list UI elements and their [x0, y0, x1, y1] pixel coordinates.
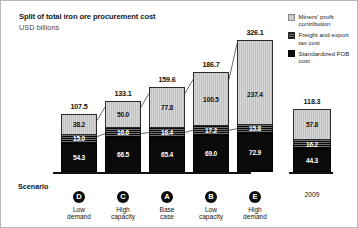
x-tick-scenario-d: D Low demand: [55, 191, 103, 221]
scenario-name-line1: Low: [187, 206, 235, 214]
segment-value: 54.3: [73, 154, 85, 161]
scenario-badge-e: E: [249, 191, 261, 203]
scenario-badge-a: A: [161, 191, 173, 203]
bar-segment-freight: 16.2: [293, 140, 331, 149]
bar-segment-freight: 15.0: [61, 135, 97, 143]
bar-total-label: 186.7: [183, 60, 239, 69]
segment-value: 15.0: [73, 135, 85, 142]
segment-value: 38.2: [73, 121, 85, 128]
bar-total-label: 326.1: [227, 28, 283, 37]
x-tick-scenario-c: C High capacity: [99, 191, 147, 221]
scenario-name-line1: Low: [55, 206, 103, 214]
bar-scenario-c: 133.1 50.0 16.6 66.5: [105, 101, 141, 172]
bar-scenario-b: 186.7 100.5 17.2 69.0: [193, 72, 229, 172]
bar-segment-freight: 15.8: [237, 125, 273, 133]
scenario-name-line2: case: [143, 213, 191, 221]
segment-value: 44.3: [306, 157, 318, 164]
segment-value: 77.8: [161, 104, 173, 111]
x-tick-scenario-a: A Base case: [143, 191, 191, 221]
bar-segment-miners-profit: 57.8: [293, 109, 331, 140]
segment-value: 72.9: [249, 149, 261, 156]
plot-area: 107.5 38.2 15.0 54.3 133.1 50.0 16.6 66.…: [1, 1, 358, 228]
scenario-name-line1: High: [231, 206, 279, 214]
bar-segment-fob: 65.4: [149, 137, 185, 172]
scenario-badge-d: D: [73, 191, 85, 203]
bar-segment-freight: 16.6: [105, 128, 141, 137]
bar-segment-miners-profit: 38.2: [61, 114, 97, 135]
scenario-name-line2: capacity: [99, 213, 147, 221]
segment-value: 17.2: [205, 127, 217, 134]
bar-total-label: 133.1: [95, 89, 151, 98]
bar-total-label: 159.6: [139, 75, 195, 84]
segment-value: 15.8: [249, 125, 261, 132]
segment-value: 57.8: [306, 121, 318, 128]
chart-frame: Split of total iron ore procurement cost…: [0, 0, 358, 228]
bar-segment-miners-profit: 77.8: [149, 87, 185, 129]
bar-segment-fob: 69.0: [193, 135, 229, 172]
segment-value: 16.6: [117, 129, 129, 136]
segment-value: 50.0: [117, 111, 129, 118]
bar-scenario-a: 159.6 77.8 16.4 65.4: [149, 87, 185, 172]
scenario-name-line2: capacity: [187, 213, 235, 221]
x-axis-line-scenarios: [53, 172, 251, 174]
scenario-badge-c: C: [117, 191, 129, 203]
x-tick-scenario-b: B Low capacity: [187, 191, 235, 221]
bar-segment-fob: 54.3: [61, 143, 97, 173]
bar-segment-freight: 17.2: [193, 126, 229, 135]
bar-segment-fob: 72.9: [237, 133, 273, 172]
bar-scenario-d: 107.5 38.2 15.0 54.3: [61, 114, 97, 172]
bar-total-label: 118.3: [284, 97, 340, 106]
segment-value: 69.0: [205, 150, 217, 157]
bar-segment-miners-profit: 50.0: [105, 101, 141, 128]
bar-scenario-e: 326.1 237.4 15.8 72.9: [237, 40, 273, 172]
x-tick-year-2009: 2009: [288, 191, 336, 198]
bar-total-label: 107.5: [51, 102, 107, 111]
bar-reference-2009: 118.3 57.8 16.2 44.3: [293, 109, 331, 172]
scenario-name-line1: High: [99, 206, 147, 214]
segment-value: 16.4: [161, 129, 173, 136]
segment-value: 16.2: [306, 141, 318, 148]
x-axis-line-2009: [289, 172, 333, 174]
scenario-row-label: Scenario: [18, 182, 48, 191]
segment-value: 66.5: [117, 151, 129, 158]
segment-value: 65.4: [161, 151, 173, 158]
bar-segment-fob: 44.3: [293, 148, 331, 172]
scenario-badge-b: B: [205, 191, 217, 203]
bar-segment-freight: 16.4: [149, 128, 185, 137]
segment-value: 237.4: [247, 91, 263, 98]
bar-segment-miners-profit: 100.5: [193, 72, 229, 126]
scenario-name-line1: Base: [143, 206, 191, 214]
scenario-name-line2: demand: [231, 213, 279, 221]
bar-segment-fob: 66.5: [105, 137, 141, 173]
x-tick-scenario-e: E High demand: [231, 191, 279, 221]
bar-segment-miners-profit: 237.4: [237, 40, 273, 125]
scenario-name-line2: demand: [55, 213, 103, 221]
segment-value: 100.5: [203, 96, 219, 103]
